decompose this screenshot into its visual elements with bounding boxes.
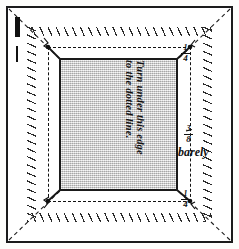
center-fabric-panel <box>59 58 178 191</box>
fraction-denominator: 8 <box>184 135 193 144</box>
measurement-barely-label: barely <box>178 145 209 160</box>
fraction-numerator: 1 <box>181 44 190 52</box>
measurement-three-eighths: 3 8 <box>184 125 193 144</box>
fold-instruction-text: Turn under this edge to the dotted line. <box>124 60 145 192</box>
fold-instruction-line-1: Turn under this edge <box>135 60 146 155</box>
thick-rule-mark-icon <box>15 17 20 37</box>
fraction-denominator: 4 <box>181 200 190 209</box>
fold-instruction-line-2: to the dotted line. <box>124 60 135 192</box>
fraction-numerator: 1 <box>181 190 190 198</box>
thin-rule-mark-icon <box>16 46 18 62</box>
fold-under-diagram: Turn under this edge to the dotted line.… <box>0 0 239 249</box>
measurement-quarter-bottom-right: 1 4 <box>181 190 190 209</box>
measurement-quarter-top-right: 1 4 <box>181 44 190 63</box>
fraction-denominator: 4 <box>181 54 190 63</box>
fraction-numerator: 3 <box>184 125 193 133</box>
